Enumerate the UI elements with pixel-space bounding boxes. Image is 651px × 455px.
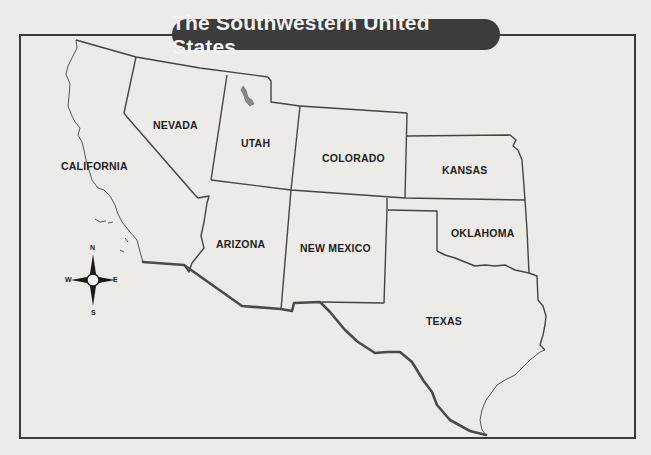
utah-colorado-border [291,106,300,190]
state-label-colorado: COLORADO [322,152,385,164]
state-label-arizona: ARIZONA [216,238,265,250]
colorado-kansas-border [405,113,407,198]
compass-east-label: E [113,276,118,283]
state-label-utah: UTAH [241,137,270,149]
map-title: The Southwestern United States [172,19,500,50]
oklahoma-red-river [437,251,529,273]
arizona-west-border [184,195,209,272]
colorado-north-border [300,106,407,113]
texas-coastline [480,350,545,435]
california-coastline [66,40,143,262]
state-borders-map [0,0,651,455]
compass-west-label: W [65,276,72,283]
compass-rose [71,254,115,306]
great-salt-lake [241,86,254,106]
compass-north-label: N [90,244,95,251]
state-label-new-mexico: NEW MEXICO [300,242,371,254]
texas-east-border [529,273,546,350]
mexico-border [143,262,486,435]
utah-north-border [268,77,300,106]
oklahoma-panhandle [388,210,437,251]
nevada-utah-border [211,75,227,180]
state-label-texas: TEXAS [426,315,462,327]
arizona-newmexico-border [281,190,291,310]
state-label-nevada: NEVADA [153,119,198,131]
compass-south-label: S [91,309,96,316]
state-label-kansas: KANSAS [442,164,488,176]
four-corners-line [211,180,525,200]
oklahoma-east-border [525,200,529,273]
state-label-california: CALIFORNIA [61,160,128,172]
state-label-oklahoma: OKLAHOMA [451,227,514,239]
